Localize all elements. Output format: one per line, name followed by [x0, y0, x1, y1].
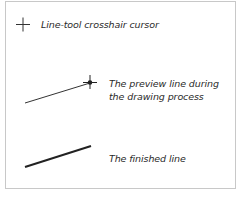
preview-label-line1: The preview line during — [109, 78, 219, 90]
finished-line-icon — [25, 146, 91, 167]
finished-label: The finished line — [109, 153, 186, 165]
crosshair-icon — [16, 18, 30, 32]
preview-label-line2: the drawing process — [109, 91, 204, 103]
preview-line-icon — [25, 75, 97, 103]
crosshair-label: Line-tool crosshair cursor — [41, 19, 159, 31]
